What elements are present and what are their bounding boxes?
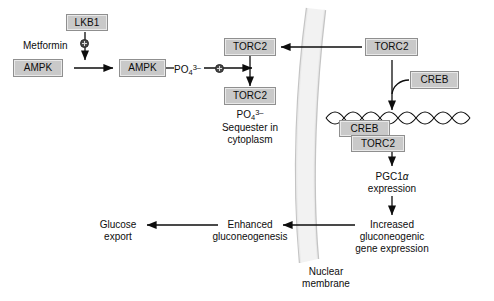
phosphate-superscript: 3–	[255, 108, 263, 117]
label-metformin: Metformin	[23, 40, 67, 52]
node-ampk-inactive[interactable]: AMPK	[13, 59, 63, 77]
label-phosphate-ampk: PO43–	[174, 62, 201, 79]
label-nuclear-membrane-line1: Nuclear	[309, 266, 343, 278]
node-torc2-nuclear[interactable]: TORC2	[365, 38, 418, 56]
label-sequester-line2: cytoplasm	[227, 134, 272, 146]
connector-creb-to-dna	[392, 80, 409, 94]
plus-circle-icon-metformin	[80, 39, 89, 48]
node-creb-free[interactable]: CREB	[410, 71, 459, 89]
label-increased-line3: gene expression	[355, 243, 428, 255]
label-increased-line2: gluconeogenic	[360, 231, 425, 243]
pathway-diagram: LKB1 AMPK AMPK TORC2 TORC2 TORC2 CREB CR…	[0, 0, 494, 301]
label-enhanced-line1: Enhanced	[227, 219, 272, 231]
pgc1a-prefix: PGC1	[376, 171, 403, 182]
label-pgc1a-expression-line2: expression	[368, 183, 416, 195]
phosphate-formula: PO	[237, 109, 251, 120]
phosphate-formula: PO	[174, 64, 188, 75]
label-pgc1a-expression: PGC1α	[376, 171, 409, 183]
node-torc2-cytoplasmic[interactable]: TORC2	[224, 38, 276, 56]
label-glucose-line1: Glucose	[100, 219, 137, 231]
node-lkb1[interactable]: LKB1	[66, 14, 108, 31]
label-sequester-line1: Sequester in	[222, 122, 278, 134]
label-enhanced-line2: gluconeogenesis	[212, 231, 287, 243]
label-nuclear-membrane-line2: membrane	[302, 278, 350, 290]
node-torc2-bound[interactable]: TORC2	[351, 135, 405, 152]
phosphate-superscript: 3–	[193, 63, 201, 72]
node-ampk-active[interactable]: AMPK	[119, 59, 166, 77]
label-glucose-line2: export	[104, 231, 132, 243]
plus-circle-icon-phosphorylation	[215, 64, 224, 73]
node-torc2-phosphorylated[interactable]: TORC2	[224, 87, 276, 105]
alpha-symbol: α	[403, 171, 409, 182]
label-increased-line1: Increased	[370, 219, 414, 231]
